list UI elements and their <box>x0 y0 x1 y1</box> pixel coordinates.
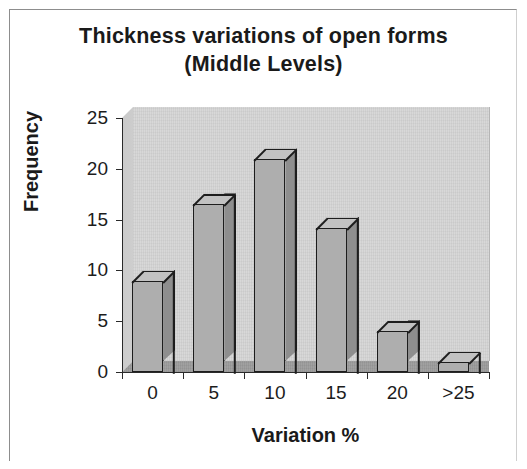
bar-front-face <box>193 204 224 372</box>
y-axis-tick-label: 20 <box>87 158 108 180</box>
chart-title-line-1: Thickness variations of open forms <box>79 24 448 48</box>
bar-front-face <box>316 228 347 372</box>
x-axis-category-label: >25 <box>442 382 474 404</box>
x-axis-title: Variation % <box>122 424 489 447</box>
y-axis-tick-label: 0 <box>97 361 108 383</box>
y-axis-tick: 15 <box>116 220 122 221</box>
x-axis-category-label: 10 <box>264 382 285 404</box>
x-axis-category-label: 20 <box>387 382 408 404</box>
x-axis-tick <box>244 372 245 379</box>
bar-top-edge <box>479 353 481 374</box>
bar-column <box>254 159 285 372</box>
bar-front-face <box>132 281 163 372</box>
bar-column <box>316 228 347 372</box>
x-axis-category-label: 15 <box>326 382 347 404</box>
bar-top-edge <box>204 194 235 196</box>
x-axis-tick <box>122 372 123 379</box>
x-axis-tick <box>489 372 490 379</box>
bar-front-face <box>254 159 285 372</box>
y-axis-tick-label: 10 <box>87 259 108 281</box>
bar-top-edge <box>449 352 480 354</box>
y-axis-tick: 20 <box>116 169 122 170</box>
bar-top-edge <box>173 271 175 373</box>
plot-area: 0510152025 <box>122 107 489 372</box>
y-axis-tick: 25 <box>116 118 122 119</box>
y-axis-tick-label: 5 <box>97 310 108 332</box>
bar-top-edge <box>143 271 174 273</box>
bar-top-edge <box>327 218 358 220</box>
y-axis-tick-label: 25 <box>87 107 108 129</box>
bar-top-edge <box>388 321 419 323</box>
y-axis-tick: 10 <box>116 270 122 271</box>
plot-back-wall <box>133 107 490 361</box>
chart-title-line-2: (Middle Levels) <box>20 50 507 78</box>
bar-column <box>193 204 224 372</box>
bar-column <box>377 331 408 372</box>
x-axis-tick <box>428 372 429 379</box>
y-axis-title: Frequency <box>20 62 43 262</box>
x-axis-tick <box>183 372 184 379</box>
y-axis-tick-label: 15 <box>87 209 108 231</box>
chart-title: Thickness variations of open forms (Midd… <box>20 22 507 79</box>
bar-front-face <box>377 331 408 372</box>
bar-column <box>132 281 163 372</box>
chart-figure: Thickness variations of open forms (Midd… <box>0 0 527 469</box>
x-axis-category-label: 0 <box>147 382 158 404</box>
x-axis-tick <box>367 372 368 379</box>
bar-top-edge <box>265 149 296 151</box>
y-axis-line <box>122 118 123 372</box>
bar-column <box>438 362 469 372</box>
x-axis-tick <box>306 372 307 379</box>
x-axis-category-label: 5 <box>208 382 219 404</box>
y-axis-tick: 5 <box>116 321 122 322</box>
bar-front-face <box>438 362 469 372</box>
bar-top-edge <box>418 322 420 374</box>
bar-top-edge <box>357 219 359 374</box>
